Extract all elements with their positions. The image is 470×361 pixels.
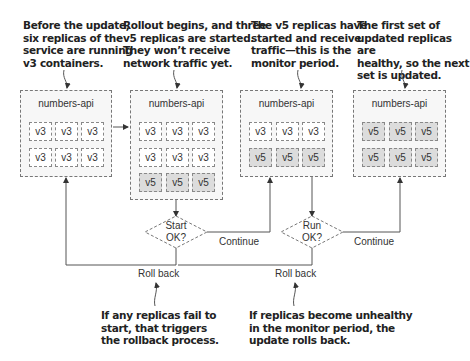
service-title: numbers-api bbox=[21, 98, 111, 109]
replica-v5: v5 bbox=[302, 148, 325, 167]
replica-v5: v5 bbox=[192, 173, 215, 192]
replica-v3: v3 bbox=[192, 122, 215, 141]
service-title: numbers-api bbox=[241, 98, 332, 109]
replica-v5: v5 bbox=[389, 122, 412, 141]
replica-v5: v5 bbox=[249, 148, 272, 167]
replica-v3: v3 bbox=[302, 122, 325, 141]
replica-v5: v5 bbox=[276, 148, 299, 167]
replica-v5: v5 bbox=[389, 148, 412, 167]
service-box-next-set: numbers-api v5 v5 v5 v5 v5 v5 bbox=[353, 90, 446, 177]
service-box-rollout-begins: numbers-api v3 v3 v3 v3 v3 v3 v5 v5 v5 bbox=[130, 90, 223, 200]
replica-v3: v3 bbox=[55, 122, 78, 141]
replica-v3: v3 bbox=[81, 148, 104, 167]
replica-v3: v3 bbox=[55, 148, 78, 167]
replica-v3: v3 bbox=[276, 122, 299, 141]
replica-v3: v3 bbox=[166, 148, 189, 167]
replica-v3: v3 bbox=[29, 148, 52, 167]
replica-v3: v3 bbox=[139, 122, 162, 141]
replica-v3: v3 bbox=[81, 122, 104, 141]
service-title: numbers-api bbox=[354, 98, 445, 109]
replica-v5: v5 bbox=[362, 148, 385, 167]
decision-run-label: Run OK? bbox=[292, 220, 332, 244]
replica-v3: v3 bbox=[166, 122, 189, 141]
service-box-monitor-period: numbers-api v3 v3 v3 v5 v5 v5 bbox=[240, 90, 333, 177]
replica-v5: v5 bbox=[139, 173, 162, 192]
rollback-label-run: Roll back bbox=[275, 268, 316, 279]
replica-v3: v3 bbox=[249, 122, 272, 141]
replica-v3: v3 bbox=[139, 148, 162, 167]
note-unhealthy-rollback: If replicas become unhealthy in the moni… bbox=[249, 309, 412, 347]
replica-v5: v5 bbox=[415, 122, 438, 141]
service-box-before-update: numbers-api v3 v3 v3 v3 v3 v3 bbox=[20, 90, 112, 177]
replica-v3: v3 bbox=[192, 148, 215, 167]
decision-start-label: Start OK? bbox=[156, 220, 196, 244]
replica-v5: v5 bbox=[362, 122, 385, 141]
rollback-label-start: Roll back bbox=[138, 268, 179, 279]
connector-lines bbox=[0, 0, 470, 361]
service-title: numbers-api bbox=[131, 98, 222, 109]
note-fail-to-start: If any replicas fail to start, that trig… bbox=[101, 309, 219, 347]
replica-v3: v3 bbox=[29, 122, 52, 141]
continue-label-start: Continue bbox=[219, 236, 259, 247]
replica-v5: v5 bbox=[166, 173, 189, 192]
continue-label-run: Continue bbox=[354, 236, 394, 247]
replica-v5: v5 bbox=[415, 148, 438, 167]
